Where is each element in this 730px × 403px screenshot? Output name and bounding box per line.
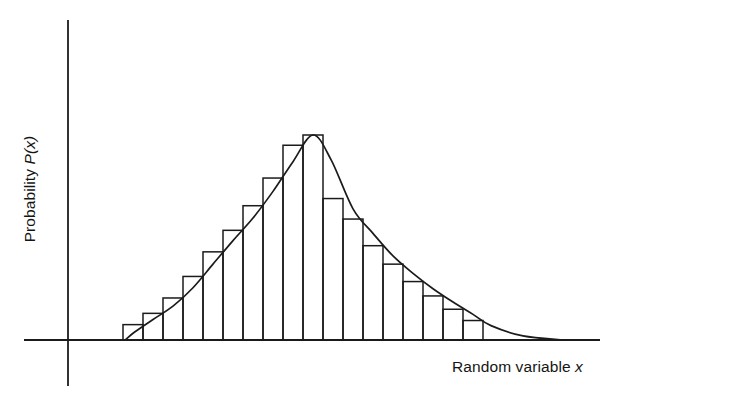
histogram-bar [423,296,443,340]
histogram-bar [183,276,203,340]
y-axis-label-text: Probability [21,164,38,242]
chart-canvas [0,0,730,403]
histogram-bar [343,219,363,340]
y-axis-label: Probability P(x) [21,99,39,279]
y-axis-label-symbol: P(x) [21,136,38,165]
histogram-bar [443,309,463,340]
histogram-bar [303,135,323,340]
x-axis-label: Random variable x [452,358,583,376]
histogram-bar [363,246,383,340]
histogram-bar [323,199,343,340]
x-axis-label-symbol: x [575,358,583,375]
histogram-bar [463,321,483,340]
fitted-density-curve [125,135,563,340]
histogram-bar [283,145,303,340]
histogram-bar [383,264,403,340]
histogram-bar [143,313,163,340]
histogram-bar [163,298,183,340]
x-axis-label-text: Random variable [452,358,575,375]
histogram-bars [123,135,483,340]
histogram-bar [403,282,423,340]
histogram-bar [223,230,243,340]
probability-distribution-figure: Probability P(x) Random variable x [0,0,730,403]
axes-group [24,20,600,386]
